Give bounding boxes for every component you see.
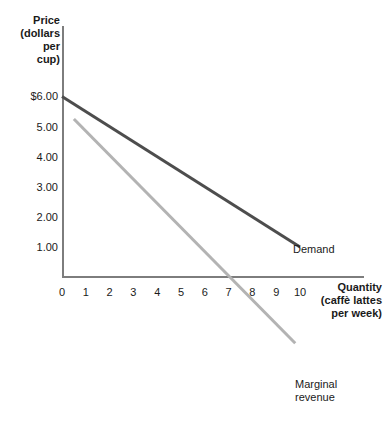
x-axis-title: Quantity (caffè lattes per week)	[312, 281, 382, 320]
marginal-revenue-series-label: Marginal revenue	[295, 378, 337, 404]
price-quantity-chart: Price (dollars per cup) $6.005.004.003.0…	[0, 0, 386, 425]
series-line	[62, 96, 300, 247]
demand-series-label: Demand	[293, 243, 335, 256]
series-line	[74, 119, 295, 343]
plot-lines	[0, 0, 386, 425]
